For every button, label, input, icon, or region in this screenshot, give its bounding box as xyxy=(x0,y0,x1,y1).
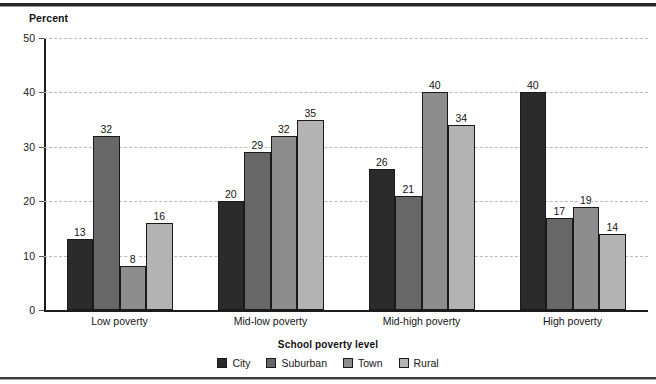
bar-suburban-1: 29 xyxy=(244,152,271,310)
y-axis-tickmark xyxy=(39,38,44,39)
bar-city-2: 26 xyxy=(369,169,396,310)
top-divider-rule-thin xyxy=(0,6,656,7)
x-axis-category-label: Mid-high poverty xyxy=(383,315,461,327)
bar-value-label: 14 xyxy=(605,221,619,233)
y-axis-tick-label: 40 xyxy=(23,86,35,98)
bottom-divider-rule-thin xyxy=(0,379,656,380)
x-axis-line xyxy=(44,310,648,312)
y-axis-tick-label: 0 xyxy=(29,304,35,316)
bar-suburban-3: 17 xyxy=(546,218,573,310)
bar-city-3: 40 xyxy=(520,92,547,310)
bar-town-3: 19 xyxy=(573,207,600,310)
legend-item-rural[interactable]: Rural xyxy=(399,357,439,369)
y-axis-tick-label: 30 xyxy=(23,141,35,153)
gridline xyxy=(44,92,648,93)
bar-value-label: 29 xyxy=(250,139,264,151)
y-axis-tick-label: 20 xyxy=(23,195,35,207)
legend-swatch-icon xyxy=(343,358,353,368)
legend-item-suburban[interactable]: Suburban xyxy=(266,357,327,369)
bar-suburban-2: 21 xyxy=(395,196,422,310)
bar-value-label: 8 xyxy=(129,253,137,265)
y-axis-title: Percent xyxy=(29,12,68,24)
y-axis-tick-label: 50 xyxy=(23,32,35,44)
bar-town-2: 40 xyxy=(422,92,449,310)
y-axis-tick-label: 10 xyxy=(23,250,35,262)
x-axis-category-label: High poverty xyxy=(543,315,602,327)
bar-value-label: 13 xyxy=(73,226,87,238)
legend-swatch-icon xyxy=(266,358,276,368)
bar-value-label: 26 xyxy=(375,156,389,168)
bar-rural-0: 16 xyxy=(146,223,173,310)
legend-label: City xyxy=(232,357,250,369)
gridline xyxy=(44,38,648,39)
legend-swatch-icon xyxy=(217,358,227,368)
legend-label: Suburban xyxy=(281,357,327,369)
legend-item-city[interactable]: City xyxy=(217,357,250,369)
legend-label: Town xyxy=(358,357,383,369)
bar-value-label: 40 xyxy=(526,79,540,91)
bar-value-label: 20 xyxy=(224,188,238,200)
chart-legend: CitySuburbanTownRural xyxy=(0,357,656,369)
y-axis-tickmark xyxy=(39,310,44,311)
legend-swatch-icon xyxy=(399,358,409,368)
legend-label: Rural xyxy=(414,357,439,369)
bar-value-label: 21 xyxy=(401,183,415,195)
bar-value-label: 19 xyxy=(579,194,593,206)
bar-value-label: 35 xyxy=(303,107,317,119)
bar-value-label: 16 xyxy=(152,210,166,222)
x-axis-category-label: Mid-low poverty xyxy=(234,315,308,327)
bar-town-1: 32 xyxy=(271,136,298,310)
legend-item-town[interactable]: Town xyxy=(343,357,383,369)
bar-city-1: 20 xyxy=(218,201,245,310)
bar-value-label: 32 xyxy=(277,123,291,135)
gridline xyxy=(44,147,648,148)
y-axis-tickmark xyxy=(39,256,44,257)
legend-title: School poverty level xyxy=(0,339,656,350)
bar-town-0: 8 xyxy=(120,266,147,310)
y-axis-tickmark xyxy=(39,92,44,93)
bar-value-label: 32 xyxy=(99,123,113,135)
bar-value-label: 40 xyxy=(428,79,442,91)
x-axis-category-label: Low poverty xyxy=(91,315,148,327)
bar-value-label: 17 xyxy=(552,205,566,217)
bar-rural-2: 34 xyxy=(448,125,475,310)
bar-city-0: 13 xyxy=(67,239,94,310)
bar-rural-3: 14 xyxy=(599,234,626,310)
gridline xyxy=(44,201,648,202)
bar-value-label: 34 xyxy=(454,112,468,124)
bar-suburban-0: 32 xyxy=(93,136,120,310)
bar-rural-1: 35 xyxy=(297,120,324,310)
y-axis-tickmark xyxy=(39,201,44,202)
chart-plot-area: 01020304050 1332816202932352621403440171… xyxy=(44,38,648,310)
y-axis-tickmark xyxy=(39,147,44,148)
